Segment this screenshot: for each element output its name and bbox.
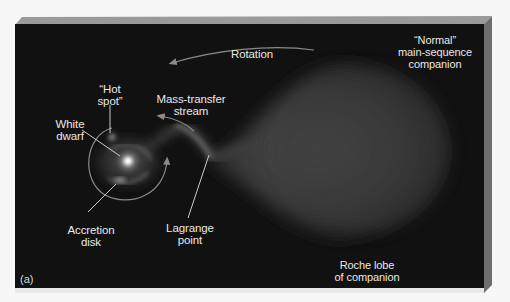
mass-transfer-label: Mass-transfer stream [148, 93, 234, 117]
companion-label: “Normal” main-sequence companion [392, 34, 478, 70]
white-dwarf [112, 145, 144, 177]
rotation-label: Rotation [212, 48, 292, 60]
binary-system-diagram: Rotation “Normal” main-sequence companio… [0, 0, 510, 302]
accretion-disk-label: Accretion disk [58, 224, 124, 248]
panel-label: (a) [20, 273, 33, 285]
roche-lobe-label: Roche lobe of companion [322, 259, 412, 283]
panel-side-bevel [484, 16, 492, 293]
lagrange-point-label: Lagrange point [160, 222, 220, 246]
hot-spot-label: “Hot spot” [88, 83, 132, 107]
white-dwarf-label: White dwarf [46, 118, 94, 142]
panel-top-bevel [15, 16, 492, 25]
hot-spot [106, 131, 118, 143]
